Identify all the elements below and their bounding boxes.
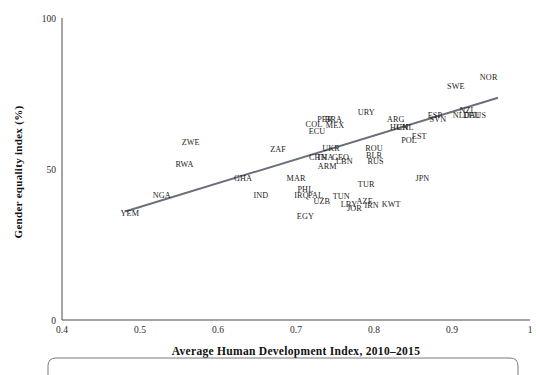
data-point-label: IRN xyxy=(364,201,378,210)
data-point-label: NOR xyxy=(480,73,498,82)
data-point-label: SVN xyxy=(430,115,447,124)
x-tick-labels: 0.40.50.60.70.80.91 xyxy=(56,325,533,335)
x-tick-label: 1 xyxy=(528,325,533,335)
caption-box-border xyxy=(48,358,518,375)
data-point-label: TUR xyxy=(358,180,375,189)
x-tick-label: 0.9 xyxy=(446,325,458,335)
data-point-label: AUS xyxy=(469,111,486,120)
y-tick-label: 0 xyxy=(51,316,56,326)
data-point-label: ARM xyxy=(318,162,338,171)
data-point-label: KWT xyxy=(382,200,401,209)
data-point-labels: ZWERWAGHAMARZAFNGAYEMINDPHLIRQPALUZBEGYT… xyxy=(121,73,498,221)
data-point-label: MEX xyxy=(326,121,345,130)
data-point-label: YEM xyxy=(121,209,140,218)
data-point-label: EST xyxy=(412,132,427,141)
data-point-label: IND xyxy=(253,191,268,200)
data-point-label: UZB xyxy=(313,197,330,206)
plot-axes xyxy=(62,18,530,320)
data-point-label: NGA xyxy=(153,191,171,200)
x-tick-label: 0.6 xyxy=(212,325,224,335)
data-point-label: RWA xyxy=(175,160,193,169)
data-point-label: ZWE xyxy=(182,138,200,147)
y-axis-title: Gender equality index (%) xyxy=(12,106,25,239)
x-tick-label: 0.7 xyxy=(290,325,302,335)
data-point-label: ZAF xyxy=(270,145,286,154)
data-point-label: SWE xyxy=(447,82,465,91)
data-point-label: CHL xyxy=(397,123,414,132)
data-point-label: MAR xyxy=(287,174,306,183)
x-tick-label: 0.8 xyxy=(368,325,380,335)
data-point-label: UKR xyxy=(322,144,340,153)
data-point-label: EGY xyxy=(297,212,314,221)
data-point-label: RUS xyxy=(367,157,384,166)
x-tick-label: 0.4 xyxy=(56,325,68,335)
scatter-plot: 0.40.50.60.70.80.91 050100 ZWERWAGHAMARZ… xyxy=(0,0,536,375)
data-point-label: THA xyxy=(316,153,333,162)
data-point-label: URY xyxy=(358,108,375,117)
y-tick-labels: 050100 xyxy=(42,14,57,326)
data-point-label: IRQ xyxy=(294,191,308,200)
data-point-label: JPN xyxy=(415,174,429,183)
data-point-label: GHA xyxy=(234,174,252,183)
data-point-label: GEO xyxy=(332,153,349,162)
y-tick-label: 100 xyxy=(42,14,57,24)
x-axis-title: Average Human Development Index, 2010–20… xyxy=(172,345,420,358)
figure-container: 0.40.50.60.70.80.91 050100 ZWERWAGHAMARZ… xyxy=(0,0,536,375)
x-tick-label: 0.5 xyxy=(134,325,146,335)
y-tick-label: 50 xyxy=(47,165,57,175)
